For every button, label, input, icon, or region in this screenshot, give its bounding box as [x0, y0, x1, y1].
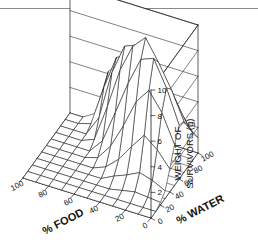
surface-plot-svg: 246810WEIGHT OFSURVIVORS (g)100806040200… — [0, 0, 258, 245]
svg-text:0: 0 — [141, 221, 150, 231]
svg-text:80: 80 — [37, 188, 50, 200]
svg-text:20: 20 — [164, 202, 177, 214]
svg-text:40: 40 — [88, 204, 101, 216]
svg-text:100: 100 — [199, 149, 215, 163]
svg-text:WEIGHT OF: WEIGHT OF — [172, 127, 183, 181]
svg-text:% FOOD: % FOOD — [40, 206, 85, 237]
svg-text:4: 4 — [158, 163, 163, 172]
svg-text:0: 0 — [156, 216, 165, 226]
svg-text:8: 8 — [158, 112, 163, 121]
svg-text:60: 60 — [62, 196, 75, 208]
svg-text:40: 40 — [173, 189, 186, 201]
svg-text:6: 6 — [158, 137, 163, 146]
svg-text:100: 100 — [9, 179, 25, 193]
svg-text:2: 2 — [158, 188, 163, 197]
svg-text:20: 20 — [114, 212, 127, 224]
figure-3d-surface-plot: 246810WEIGHT OFSURVIVORS (g)100806040200… — [0, 0, 258, 245]
svg-text:10: 10 — [158, 86, 167, 95]
